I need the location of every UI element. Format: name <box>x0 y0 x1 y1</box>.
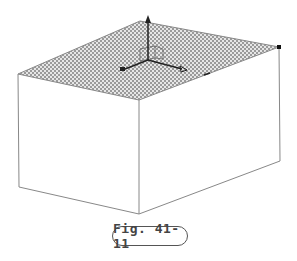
box-edge-right <box>279 47 280 161</box>
x-handle-icon <box>120 67 125 71</box>
z-arrow-icon <box>145 15 151 23</box>
box-edge-left <box>18 74 19 187</box>
figure-caption: Fig. 41-11 <box>112 226 188 246</box>
corner-handle[interactable] <box>277 45 281 49</box>
box-edge-bottom-left <box>19 187 139 214</box>
box-edge-bottom-right <box>139 161 280 214</box>
